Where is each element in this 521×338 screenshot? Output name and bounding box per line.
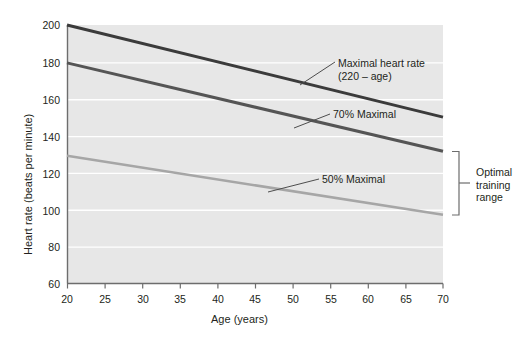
x-tick-label-30: 30 <box>128 293 158 305</box>
annotation-maximal-line-2: (220 – age) <box>338 70 425 83</box>
bracket-shape <box>452 152 459 216</box>
annotation-maximal-heart-rate: Maximal heart rate (220 – age) <box>338 57 425 82</box>
chart-canvas <box>0 0 521 338</box>
x-axis-title: Age (years) <box>211 313 268 325</box>
y-tick-label-200: 200 <box>30 19 60 31</box>
heart-rate-training-zones-chart: 200 180 160 140 120 100 80 60 20 25 30 3… <box>0 0 521 338</box>
annotation-optimal-training-range: Optimal training range <box>476 166 512 204</box>
y-axis-title: Heart rate (beats per minute) <box>22 114 34 255</box>
x-tick-label-70: 70 <box>428 293 458 305</box>
annotation-70-percent-maximal: 70% Maximal <box>333 108 396 121</box>
y-tick-label-60: 60 <box>30 278 60 290</box>
y-tick-label-100: 100 <box>30 205 60 217</box>
x-tick-label-40: 40 <box>203 293 233 305</box>
annotation-bracket-line-2: training <box>476 179 512 192</box>
x-tick-label-35: 35 <box>165 293 195 305</box>
y-tick-label-180: 180 <box>30 57 60 69</box>
annotation-50-percent-maximal: 50% Maximal <box>322 173 385 186</box>
x-tick-label-50: 50 <box>278 293 308 305</box>
y-tick-label-160: 160 <box>30 94 60 106</box>
x-tick-label-55: 55 <box>316 293 346 305</box>
annotation-bracket-line-3: range <box>476 191 512 204</box>
y-tick-label-120: 120 <box>30 168 60 180</box>
optimal-training-range-bracket <box>452 152 470 216</box>
x-tick-label-20: 20 <box>52 293 82 305</box>
x-tick-label-45: 45 <box>240 293 270 305</box>
annotation-bracket-line-1: Optimal <box>476 166 512 179</box>
x-tick-label-25: 25 <box>90 293 120 305</box>
x-tick-label-60: 60 <box>353 293 383 305</box>
y-tick-label-80: 80 <box>30 241 60 253</box>
x-tick-marks <box>68 284 444 289</box>
x-tick-label-65: 65 <box>391 293 421 305</box>
annotation-maximal-line-1: Maximal heart rate <box>338 57 425 70</box>
y-tick-label-140: 140 <box>30 131 60 143</box>
